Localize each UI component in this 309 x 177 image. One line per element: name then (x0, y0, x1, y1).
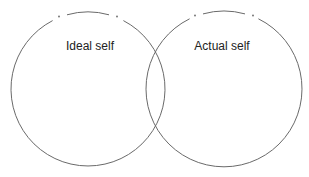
ideal-self-label: Ideal self (66, 39, 114, 53)
actual-self-label: Actual self (194, 39, 249, 53)
venn-diagram (0, 0, 309, 177)
actual-self-gap-dots (194, 15, 254, 17)
ideal-self-circle (11, 12, 165, 166)
ideal-self-gap-dots (58, 16, 118, 18)
actual-self-circle (146, 11, 302, 167)
